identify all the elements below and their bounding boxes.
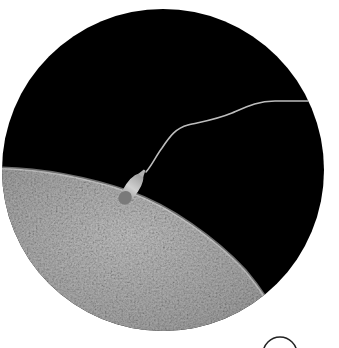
indicator-circle — [263, 337, 297, 348]
micrograph-svg — [0, 0, 339, 348]
circular-frame — [0, 0, 339, 348]
micrograph-scene: Micrograph of a sperm cell attaching to … — [0, 0, 339, 348]
